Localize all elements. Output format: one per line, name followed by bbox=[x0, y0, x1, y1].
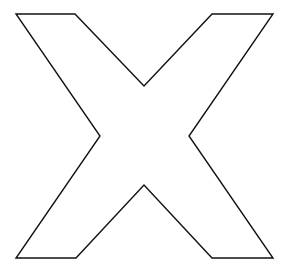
x-letter-icon bbox=[0, 0, 291, 279]
x-outline-figure: X bbox=[0, 0, 291, 279]
